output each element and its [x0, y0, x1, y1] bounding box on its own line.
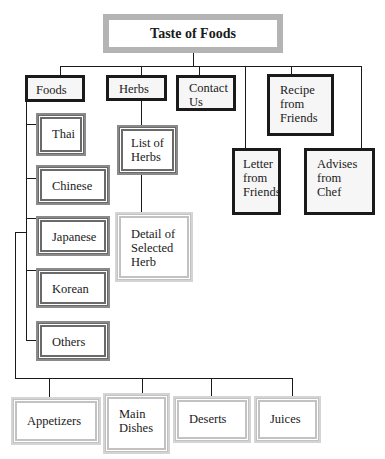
connector-main-dishes — [142, 378, 143, 394]
node-advises-label: Advises from Chef — [317, 157, 362, 199]
node-appetizers-label: Appetizers — [27, 414, 85, 428]
connector-foods-spine — [26, 101, 27, 341]
node-chinese[interactable]: Chinese — [37, 166, 109, 204]
node-advises-from-chef[interactable]: Advises from Chef — [304, 148, 375, 215]
node-herbs[interactable]: Herbs — [106, 75, 167, 101]
node-korean-label: Korean — [52, 282, 94, 296]
node-thai-label: Thai — [52, 127, 70, 141]
node-letter-label: Letter from Friends — [243, 157, 270, 199]
node-chinese-label: Chinese — [52, 179, 94, 193]
connector-course-horizontal — [15, 378, 293, 379]
node-others[interactable]: Others — [37, 322, 109, 360]
connector-herbs-down — [141, 66, 142, 75]
connector-japanese — [26, 218, 37, 219]
connector-advises-down — [361, 66, 362, 148]
node-list-of-herbs[interactable]: List of Herbs — [118, 126, 177, 174]
node-thai[interactable]: Thai — [37, 114, 85, 155]
node-deserts[interactable]: Deserts — [174, 397, 250, 442]
connector-list-detail — [141, 174, 142, 213]
connector-juices — [292, 378, 293, 397]
connector-deserts — [211, 378, 212, 397]
node-juices[interactable]: Juices — [255, 397, 320, 442]
title-label: Taste of Foods — [150, 27, 236, 41]
node-japanese[interactable]: Japanese — [37, 217, 109, 255]
connector-thai — [26, 124, 37, 125]
node-contact-us[interactable]: Contact Us — [176, 75, 236, 111]
connector-top-horizontal — [60, 66, 362, 67]
node-list-of-herbs-label: List of Herbs — [131, 136, 164, 164]
connector-recipe-down — [291, 66, 292, 74]
connector-course-spine — [15, 232, 16, 378]
node-deserts-label: Deserts — [189, 412, 235, 426]
node-recipe-label: Recipe from Friends — [280, 83, 321, 125]
node-contact-us-label: Contact Us — [189, 81, 223, 109]
connector-korean — [26, 270, 37, 271]
connector-appetizers — [49, 378, 50, 398]
connector-foods-down — [60, 66, 61, 75]
node-foods[interactable]: Foods — [25, 75, 85, 102]
node-detail-label: Detail of Selected Herb — [131, 227, 177, 269]
node-foods-label: Foods — [36, 83, 74, 97]
connector-letter-down — [245, 66, 246, 148]
diagram-title: Taste of Foods — [103, 14, 283, 53]
connector-herbs-list — [141, 100, 142, 126]
node-letter-from-friends[interactable]: Letter from Friends — [232, 148, 281, 215]
node-others-label: Others — [52, 335, 94, 349]
connector-others — [26, 340, 37, 341]
connector-contact-down — [199, 66, 200, 75]
node-japanese-label: Japanese — [52, 230, 94, 244]
connector-chinese — [26, 178, 37, 179]
node-korean[interactable]: Korean — [37, 269, 109, 307]
node-main-dishes[interactable]: Main Dishes — [104, 394, 169, 453]
node-juices-label: Juices — [270, 412, 305, 426]
node-recipe-from-friends[interactable]: Recipe from Friends — [267, 74, 334, 136]
connector-course-link — [15, 232, 26, 233]
node-herbs-label: Herbs — [119, 82, 154, 96]
node-detail-of-selected-herb[interactable]: Detail of Selected Herb — [116, 213, 192, 281]
node-main-dishes-label: Main Dishes — [119, 407, 154, 435]
connector-title-down — [193, 52, 194, 66]
node-appetizers[interactable]: Appetizers — [12, 398, 100, 444]
